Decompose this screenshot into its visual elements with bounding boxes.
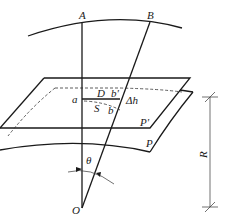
label-b-lower: b	[108, 104, 114, 116]
theta-arrow-right	[96, 172, 101, 177]
label-d: D	[96, 87, 105, 99]
curved-surface-p	[0, 143, 150, 152]
label-b-prime: b'	[111, 87, 120, 99]
top-arc	[28, 20, 182, 36]
dashed-left-edge	[8, 88, 55, 136]
theta-arrow-left	[76, 167, 82, 172]
label-a-lower: a	[72, 93, 78, 105]
label-b-upper: B	[147, 9, 154, 21]
label-o: O	[72, 204, 80, 216]
label-r: R	[197, 151, 209, 159]
label-s: S	[94, 102, 100, 114]
arc-s	[84, 101, 120, 110]
label-p-prime: P'	[139, 116, 150, 128]
label-p: P	[145, 137, 153, 149]
plane-p-prime-left	[0, 78, 44, 128]
label-a-upper: A	[78, 9, 86, 21]
line-bo	[82, 22, 150, 208]
earth-curvature-diagram: A B a D b' Δh S b P' P θ O R	[0, 0, 225, 219]
label-theta: θ	[86, 154, 92, 166]
label-delta-h: Δh	[125, 94, 138, 106]
